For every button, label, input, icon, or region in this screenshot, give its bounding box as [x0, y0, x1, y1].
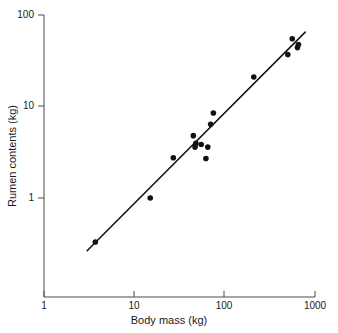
x-axis-title: Body mass (kg) — [0, 314, 338, 326]
data-point — [208, 121, 214, 127]
x-tick-label-100: 100 — [204, 301, 244, 311]
data-point — [93, 239, 99, 245]
data-point — [289, 36, 295, 42]
data-point — [198, 142, 204, 148]
x-tick-label-1: 1 — [24, 301, 64, 311]
chart-canvas — [0, 0, 338, 333]
x-axis-ticks — [44, 291, 315, 297]
axes-group — [44, 15, 315, 297]
scatter-plot-figure: 100 10 1 1 10 100 1000 Body mass (kg) Ru… — [0, 0, 338, 333]
data-point — [285, 52, 291, 58]
x-tick-label-1000: 1000 — [295, 301, 335, 311]
data-point — [191, 133, 197, 139]
y-axis-ticks — [38, 15, 44, 198]
y-tick-label-100: 100 — [2, 10, 34, 20]
data-point — [147, 195, 153, 201]
data-point — [193, 141, 199, 147]
data-point — [296, 42, 302, 48]
data-point — [251, 74, 257, 80]
data-point — [203, 156, 209, 162]
x-tick-label-10: 10 — [114, 301, 154, 311]
data-point — [171, 155, 177, 161]
data-point — [205, 144, 211, 150]
data-point — [211, 110, 217, 116]
y-axis-title: Rumen contents (kg) — [6, 91, 18, 221]
